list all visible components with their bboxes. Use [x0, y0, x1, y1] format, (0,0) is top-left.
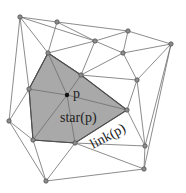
vertex — [31, 138, 35, 142]
label-p: p — [73, 86, 80, 101]
vertex — [18, 15, 22, 19]
vertex — [27, 87, 31, 91]
vertex — [79, 73, 83, 77]
label-star: star(p) — [60, 110, 97, 126]
vertex — [143, 144, 147, 148]
vertex — [135, 78, 139, 82]
center-point-p — [65, 93, 69, 97]
vertex — [46, 51, 50, 55]
vertex — [93, 39, 97, 43]
vertex — [73, 141, 77, 145]
vertex — [169, 42, 173, 46]
vertex — [121, 51, 125, 55]
vertex — [7, 119, 11, 123]
triangulation-diagram: p star(p) link(p) — [0, 0, 186, 193]
vertex — [126, 29, 130, 33]
vertex — [55, 20, 59, 24]
vertex — [142, 167, 146, 171]
vertex — [44, 179, 48, 183]
vertex — [125, 108, 129, 112]
